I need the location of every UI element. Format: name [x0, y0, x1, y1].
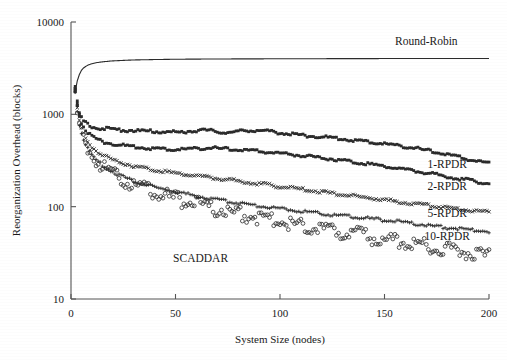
annotation-label: 2-RPDR — [427, 180, 467, 192]
round-robin-curve — [75, 58, 489, 91]
y-axis-title: Reorganization Overhead (blocks) — [10, 85, 23, 237]
y-tick-label: 1000 — [42, 108, 65, 120]
annotation-label: 10-RPDR — [425, 230, 471, 242]
y-tick-label: 10000 — [37, 16, 65, 28]
y-tick-label: 100 — [48, 201, 65, 213]
annotation-label: 1-RPDR — [427, 158, 467, 170]
reorganization-overhead-chart: 05010015020010100100010000System Size (n… — [0, 0, 507, 360]
x-tick-label: 0 — [68, 307, 74, 319]
x-tick-label: 200 — [481, 307, 498, 319]
annotation-label: 5-RPDR — [427, 207, 467, 219]
chart-figure: 05010015020010100100010000System Size (n… — [0, 0, 507, 360]
x-tick-label: 50 — [170, 307, 182, 319]
annotation-label: Round-Robin — [395, 35, 458, 47]
x-axis-title: System Size (nodes) — [235, 333, 325, 346]
y-tick-label: 10 — [53, 293, 65, 305]
series-2-rpdr — [74, 88, 491, 185]
series-5-rpdr — [73, 88, 490, 214]
annotation-label: SCADDAR — [173, 252, 228, 264]
x-tick-label: 150 — [376, 307, 393, 319]
x-tick-label: 100 — [272, 307, 289, 319]
